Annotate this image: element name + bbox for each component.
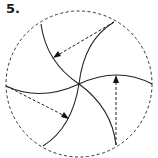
arrowhead-left-icon (61, 112, 69, 119)
arrowhead-right-icon (113, 75, 119, 83)
arrow-left-shaft (6, 86, 63, 115)
arrowhead-top-icon (53, 51, 61, 58)
arrow-top-shaft (58, 22, 114, 55)
spoke-top-right (79, 22, 114, 84)
spoke-bottom-right (79, 84, 116, 145)
curved-spokes (6, 22, 152, 146)
spiral-diagram (0, 0, 158, 158)
